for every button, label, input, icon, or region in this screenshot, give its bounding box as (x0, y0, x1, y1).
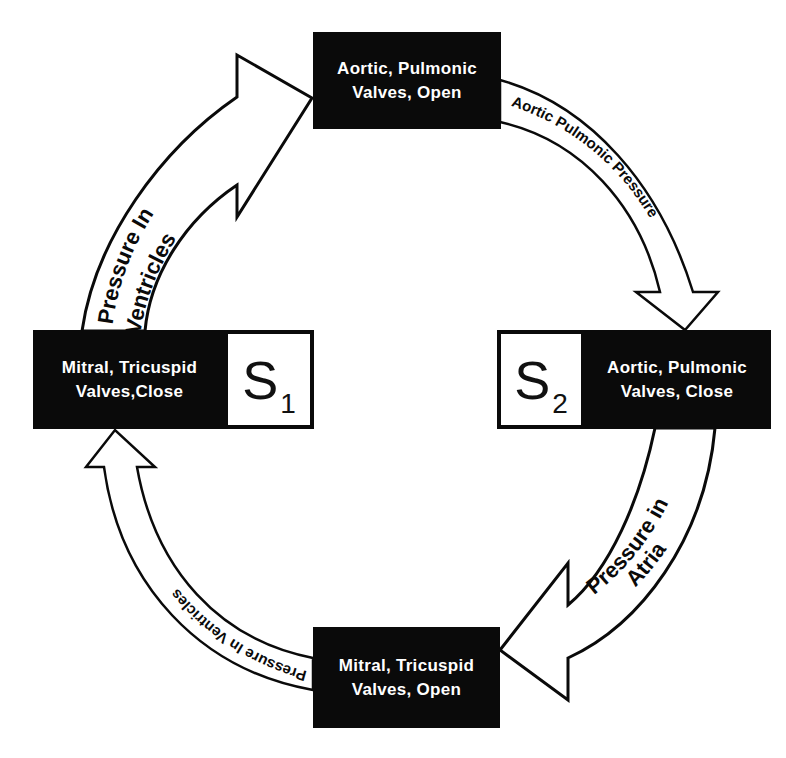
node-bottom-line-2: Valves, Open (352, 678, 461, 702)
node-aortic-pulmonic-open: Aortic, Pulmonic Valves, Open (313, 32, 501, 129)
arrow-right-to-bottom: Pressure in Atria (500, 428, 715, 700)
node-bottom-line-1: Mitral, Tricuspid (339, 654, 474, 678)
node-right-line-1: Aortic, Pulmonic (607, 356, 747, 380)
heart-sound-s1: S1 (224, 330, 314, 429)
heart-sound-s1-label: S1 (242, 353, 296, 407)
node-top-line-1: Aortic, Pulmonic (337, 57, 477, 81)
heart-sound-s2: S2 (497, 330, 585, 429)
node-left-line-1: Mitral, Tricuspid (62, 356, 197, 380)
node-mitral-tricuspid-close: Mitral, Tricuspid Valves,Close (33, 330, 226, 429)
arrow-bottom-to-left: Pressure In Ventricles (86, 430, 313, 690)
arrow-left-to-top: Pressure In Ventricles (82, 55, 312, 336)
node-aortic-pulmonic-close: Aortic, Pulmonic Valves, Close (583, 330, 771, 429)
arrow-top-to-right: Aortic Pulmonic Pressure (500, 80, 718, 330)
node-mitral-tricuspid-open: Mitral, Tricuspid Valves, Open (313, 627, 500, 728)
heart-sound-s2-label: S2 (514, 353, 568, 407)
node-right-line-2: Valves, Close (621, 380, 734, 404)
node-left-line-2: Valves,Close (76, 380, 184, 404)
node-top-line-2: Valves, Open (352, 81, 461, 105)
